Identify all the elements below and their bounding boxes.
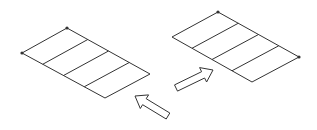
diagram-svg — [0, 0, 317, 130]
corner-dot — [297, 55, 300, 58]
left-panel — [20, 26, 150, 98]
arrow-up-right-icon — [175, 68, 214, 92]
corner-dot — [216, 10, 219, 13]
corner-dot — [20, 51, 23, 54]
right-panel — [172, 10, 301, 82]
diagram-canvas — [0, 0, 317, 130]
corner-dot — [65, 26, 68, 29]
arrow-up-left-icon — [135, 95, 170, 119]
